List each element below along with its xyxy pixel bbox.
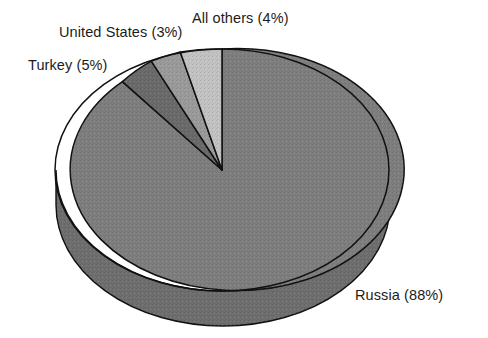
- pie-label-united-states: United States (3%): [59, 25, 183, 41]
- pie-label-turkey: Turkey (5%): [28, 58, 108, 74]
- pie-label-russia: Russia (88%): [355, 288, 443, 304]
- pie-label-all-others: All others (4%): [192, 11, 289, 27]
- pie-slice-russia: [70, 48, 404, 290]
- pie-chart-figure: Turkey (5%) United States (3%) All other…: [0, 0, 488, 338]
